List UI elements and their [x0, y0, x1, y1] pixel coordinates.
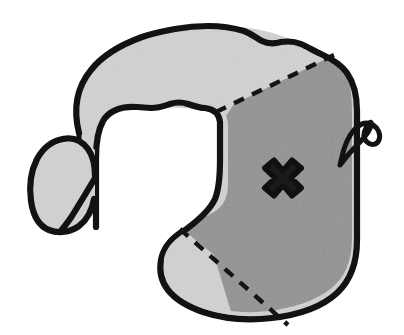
colon-resection-figure: Colon resection diagram Line drawing of …	[0, 0, 404, 335]
caecum-and-terminal-ileum	[30, 138, 95, 232]
colon-diagram-svg: Colon resection diagram Line drawing of …	[0, 0, 404, 335]
